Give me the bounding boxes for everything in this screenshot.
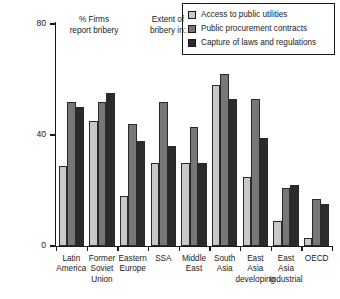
category-label-line: Industrial xyxy=(265,275,308,285)
y-axis-tick xyxy=(50,245,55,246)
bar xyxy=(312,199,320,246)
x-axis-tick xyxy=(271,246,272,251)
bar xyxy=(59,166,67,246)
category-label-line: Union xyxy=(81,275,124,285)
x-axis-tick xyxy=(117,246,118,251)
y-axis-tick xyxy=(50,134,55,135)
x-axis-tick xyxy=(301,246,302,251)
x-axis-tick xyxy=(332,246,333,251)
x-axis-tick xyxy=(56,246,57,251)
bar xyxy=(198,163,206,246)
bar xyxy=(229,99,237,246)
bar xyxy=(98,102,106,246)
bar xyxy=(89,121,97,246)
x-axis-tick xyxy=(87,246,88,251)
bar xyxy=(321,204,329,246)
bar xyxy=(190,127,198,246)
bar xyxy=(120,196,128,246)
bar xyxy=(128,124,136,246)
x-axis-category-label: OECD xyxy=(295,254,338,264)
bar xyxy=(159,102,167,246)
y-axis-tick xyxy=(50,23,55,24)
bar xyxy=(243,177,251,246)
bar xyxy=(251,99,259,246)
y-axis-tick-label: 0 xyxy=(16,241,46,250)
bar xyxy=(137,141,145,246)
bar xyxy=(67,102,75,246)
bar xyxy=(220,74,228,246)
y-axis-tick-label: 80 xyxy=(16,19,46,28)
category-label-line: OECD xyxy=(295,254,338,264)
bar xyxy=(106,93,114,246)
bribery-bar-chart-figure: Access to public utilities Public procur… xyxy=(0,0,340,299)
x-axis-tick xyxy=(240,246,241,251)
bar xyxy=(151,163,159,246)
bar xyxy=(181,163,189,246)
bar xyxy=(212,85,220,246)
y-axis-line xyxy=(55,22,56,247)
bar xyxy=(290,185,298,246)
x-axis-tick xyxy=(148,246,149,251)
bar xyxy=(282,188,290,246)
bar xyxy=(168,146,176,246)
x-axis-tick xyxy=(209,246,210,251)
x-axis-tick xyxy=(179,246,180,251)
bar xyxy=(304,238,312,246)
bar xyxy=(273,221,281,246)
y-axis-tick-label: 40 xyxy=(16,130,46,139)
bar xyxy=(76,107,84,246)
bar xyxy=(260,138,268,246)
category-label-line: Europe xyxy=(111,264,154,274)
category-label-line: Asia xyxy=(265,264,308,274)
plot-area: 04080 LatinAmericaFormerSovietUnionEaste… xyxy=(0,0,340,299)
